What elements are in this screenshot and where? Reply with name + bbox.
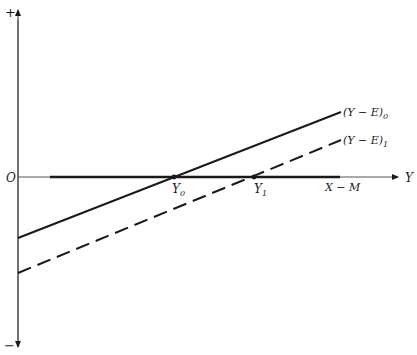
origin-label: O xyxy=(6,171,16,185)
x-axis-label: Y xyxy=(405,171,414,185)
plus-label: + xyxy=(5,5,16,20)
minus-label: − xyxy=(4,338,15,353)
y1-label: Y1 xyxy=(254,182,267,198)
y0-label: Y0 xyxy=(172,182,185,198)
y1-point xyxy=(252,175,257,180)
diagram-canvas: + − O Y (Y − E)0 (Y − E)1 X − M Y0 Y1 xyxy=(0,0,417,355)
x-minus-m-label: X − M xyxy=(324,181,361,194)
line0-label: (Y − E)0 xyxy=(343,106,388,121)
y0-point xyxy=(172,175,177,180)
y-minus-e-1-line xyxy=(18,140,341,273)
line1-label: (Y − E)1 xyxy=(343,134,388,149)
y-minus-e-0-line xyxy=(18,112,341,238)
